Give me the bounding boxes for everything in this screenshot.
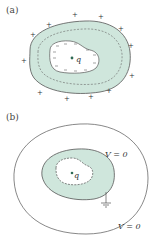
charge-label-q-b: q xyxy=(74,171,79,180)
svg-text:+: + xyxy=(21,57,27,65)
svg-text:+: + xyxy=(129,72,135,80)
conductor-diagram-b: q V = 0 V = 0 xyxy=(0,110,157,240)
svg-text:+: + xyxy=(128,42,134,50)
point-charge-dot xyxy=(71,57,74,60)
outer-potential-label: V = 0 xyxy=(118,222,141,231)
panel-a-shielded-conductor: (a) q +++ +++ +++ +++ xyxy=(0,0,157,110)
svg-text:+: + xyxy=(118,25,124,33)
svg-text:+: + xyxy=(106,87,112,95)
svg-text:+: + xyxy=(88,93,94,101)
svg-text:+: + xyxy=(46,21,52,29)
inner-potential-label: V = 0 xyxy=(105,150,128,159)
panel-b-grounded-conductor: (b) q V = 0 V = 0 xyxy=(0,110,157,240)
svg-text:+: + xyxy=(30,31,36,39)
charge-label-q: q xyxy=(76,55,81,64)
svg-text:+: + xyxy=(64,95,70,103)
svg-text:+: + xyxy=(98,13,104,21)
svg-text:+: + xyxy=(72,11,78,19)
point-charge-dot-b xyxy=(71,172,74,175)
conductor-diagram-a: q +++ +++ +++ +++ xyxy=(0,0,157,110)
svg-text:+: + xyxy=(37,89,43,97)
